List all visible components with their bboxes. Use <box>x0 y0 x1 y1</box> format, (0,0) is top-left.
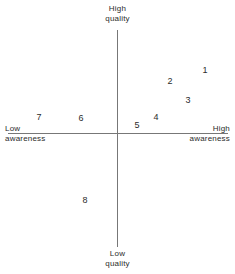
data-point-2: 2 <box>167 77 172 86</box>
axis-label-low-quality-line2: quality <box>0 259 235 269</box>
data-point-1: 1 <box>202 66 207 75</box>
axis-label-high-quality-line2: quality <box>0 14 235 24</box>
axis-label-low-awareness-line1: Low <box>5 124 46 134</box>
axis-label-high-quality: High quality <box>0 4 235 24</box>
y-axis-line <box>117 30 118 247</box>
data-point-6: 6 <box>78 114 83 123</box>
data-point-3: 3 <box>185 96 190 105</box>
axis-label-low-awareness: Low awareness <box>5 124 46 144</box>
perceptual-map-chart: High quality Low quality Low awareness H… <box>0 0 235 274</box>
axis-label-high-awareness-line2: awareness <box>190 134 231 144</box>
axis-label-low-awareness-line2: awareness <box>5 134 46 144</box>
axis-label-low-quality-line1: Low <box>0 249 235 259</box>
axis-label-low-quality: Low quality <box>0 249 235 269</box>
axis-label-high-quality-line1: High <box>0 4 235 14</box>
data-point-8: 8 <box>82 196 87 205</box>
data-point-7: 7 <box>36 113 41 122</box>
axis-label-high-awareness: High awareness <box>190 124 231 144</box>
data-point-4: 4 <box>153 113 158 122</box>
data-point-5: 5 <box>134 121 139 130</box>
axis-label-high-awareness-line1: High <box>190 124 231 134</box>
